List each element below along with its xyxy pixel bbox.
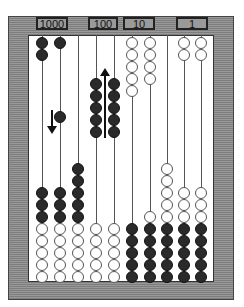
bead-dark[interactable] [178, 235, 190, 247]
bead-dark[interactable] [144, 259, 156, 271]
bead-light[interactable] [126, 73, 138, 85]
bead-light[interactable] [126, 37, 138, 49]
bead-light[interactable] [161, 175, 173, 187]
bead-dark[interactable] [195, 247, 207, 259]
bead-light[interactable] [72, 271, 84, 283]
bead-dark[interactable] [126, 271, 138, 283]
bead-light[interactable] [90, 247, 102, 259]
bead-dark[interactable] [36, 187, 48, 199]
bead-light[interactable] [90, 235, 102, 247]
bead-dark[interactable] [195, 223, 207, 235]
bead-light[interactable] [108, 271, 120, 283]
bead-dark[interactable] [90, 78, 102, 90]
bead-dark[interactable] [72, 175, 84, 187]
bead-dark[interactable] [126, 223, 138, 235]
bead-light[interactable] [36, 259, 48, 271]
bead-dark[interactable] [108, 78, 120, 90]
bead-dark[interactable] [54, 37, 66, 49]
bead-dark[interactable] [178, 247, 190, 259]
bead-dark[interactable] [126, 235, 138, 247]
bead-light[interactable] [108, 223, 120, 235]
bead-dark[interactable] [195, 271, 207, 283]
bead-dark[interactable] [178, 259, 190, 271]
bead-dark[interactable] [161, 223, 173, 235]
bead-dark[interactable] [36, 37, 48, 49]
bead-dark[interactable] [161, 259, 173, 271]
bead-light[interactable] [195, 211, 207, 223]
bead-dark[interactable] [90, 126, 102, 138]
bead-dark[interactable] [54, 111, 66, 123]
bead-dark[interactable] [72, 199, 84, 211]
bead-dark[interactable] [108, 126, 120, 138]
bead-dark[interactable] [72, 163, 84, 175]
bead-light[interactable] [178, 37, 190, 49]
bead-dark[interactable] [36, 49, 48, 61]
bead-light[interactable] [195, 187, 207, 199]
bead-dark[interactable] [108, 114, 120, 126]
bead-light[interactable] [126, 49, 138, 61]
bead-light[interactable] [54, 271, 66, 283]
bead-dark[interactable] [178, 223, 190, 235]
bead-light[interactable] [195, 37, 207, 49]
bead-dark[interactable] [195, 259, 207, 271]
bead-light[interactable] [126, 85, 138, 97]
bead-light[interactable] [90, 223, 102, 235]
bead-dark[interactable] [144, 235, 156, 247]
bead-light[interactable] [195, 49, 207, 61]
bead-light[interactable] [161, 163, 173, 175]
bead-light[interactable] [90, 259, 102, 271]
bead-light[interactable] [144, 37, 156, 49]
bead-light[interactable] [126, 61, 138, 73]
bead-dark[interactable] [90, 90, 102, 102]
bead-dark[interactable] [144, 271, 156, 283]
bead-light[interactable] [72, 247, 84, 259]
bead-dark[interactable] [161, 271, 173, 283]
bead-light[interactable] [36, 271, 48, 283]
bead-dark[interactable] [54, 199, 66, 211]
bead-dark[interactable] [54, 211, 66, 223]
bead-dark[interactable] [161, 235, 173, 247]
bead-dark[interactable] [36, 211, 48, 223]
bead-light[interactable] [36, 223, 48, 235]
bead-dark[interactable] [126, 247, 138, 259]
bead-light[interactable] [144, 61, 156, 73]
bead-light[interactable] [195, 199, 207, 211]
bead-light[interactable] [108, 235, 120, 247]
bead-light[interactable] [90, 271, 102, 283]
bead-light[interactable] [54, 259, 66, 271]
bead-light[interactable] [178, 199, 190, 211]
bead-light[interactable] [72, 259, 84, 271]
bead-light[interactable] [161, 199, 173, 211]
bead-light[interactable] [108, 247, 120, 259]
bead-light[interactable] [108, 259, 120, 271]
bead-light[interactable] [36, 247, 48, 259]
bead-light[interactable] [144, 73, 156, 85]
bead-light[interactable] [161, 211, 173, 223]
bead-light[interactable] [72, 223, 84, 235]
bead-dark[interactable] [144, 223, 156, 235]
bead-dark[interactable] [161, 247, 173, 259]
bead-light[interactable] [178, 187, 190, 199]
bead-dark[interactable] [90, 114, 102, 126]
bead-light[interactable] [161, 187, 173, 199]
bead-dark[interactable] [108, 102, 120, 114]
bead-dark[interactable] [72, 211, 84, 223]
bead-light[interactable] [144, 49, 156, 61]
bead-dark[interactable] [90, 102, 102, 114]
bead-light[interactable] [144, 211, 156, 223]
bead-dark[interactable] [36, 199, 48, 211]
bead-light[interactable] [54, 223, 66, 235]
bead-dark[interactable] [195, 235, 207, 247]
bead-dark[interactable] [178, 271, 190, 283]
bead-light[interactable] [36, 235, 48, 247]
bead-dark[interactable] [126, 259, 138, 271]
bead-dark[interactable] [108, 90, 120, 102]
bead-light[interactable] [54, 247, 66, 259]
bead-light[interactable] [72, 235, 84, 247]
bead-light[interactable] [178, 211, 190, 223]
bead-dark[interactable] [144, 247, 156, 259]
bead-light[interactable] [54, 235, 66, 247]
bead-dark[interactable] [54, 187, 66, 199]
bead-light[interactable] [178, 49, 190, 61]
bead-dark[interactable] [72, 187, 84, 199]
